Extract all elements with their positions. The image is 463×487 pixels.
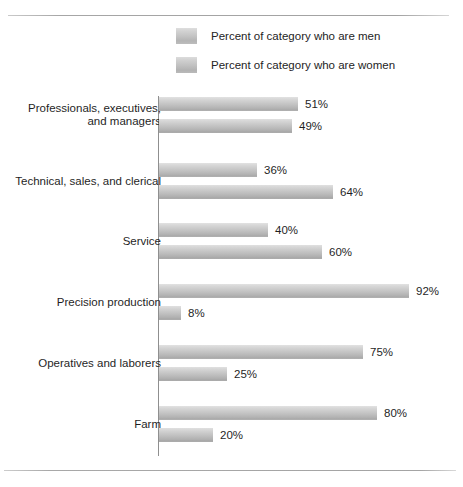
bar-women [159,367,227,381]
bar-value-men: 36% [264,163,287,177]
bar-women [159,306,181,320]
bar-row-women: 60% [159,245,352,259]
bar-men [159,284,409,298]
bar-row-women: 49% [159,119,322,133]
bar-row-women: 20% [159,428,243,442]
category-label-line1: Farm [134,418,161,430]
bar-row-men: 75% [159,345,393,359]
bar-value-men: 51% [305,97,328,111]
bar-value-men: 75% [370,345,393,359]
bar-row-women: 25% [159,367,257,381]
category-label-precision: Precision production [0,296,161,309]
bar-value-women: 25% [234,367,257,381]
bar-women [159,428,213,442]
category-label-line1: Professionals, executives, [28,102,161,114]
bar-women [159,185,333,199]
bar-row-men: 92% [159,284,439,298]
bar-row-men: 36% [159,163,287,177]
bar-men [159,406,377,420]
category-label-service: Service [0,235,161,248]
category-label-farm: Farm [0,418,161,431]
bar-row-men: 40% [159,223,298,237]
category-label-operatives: Operatives and laborers [0,357,161,370]
bar-value-women: 64% [340,185,363,199]
bar-men [159,345,363,359]
bar-value-men: 80% [384,406,407,420]
bar-value-women: 49% [299,119,322,133]
bar-row-women: 64% [159,185,363,199]
category-label-line1: Operatives and laborers [38,357,161,369]
bar-value-women: 60% [329,245,352,259]
chart-page: Percent of category who are men Percent … [0,0,463,487]
bar-men [159,163,257,177]
bar-row-women: 8% [159,306,205,320]
y-axis-line [158,96,159,456]
category-label-line2: and managers [87,115,161,127]
category-label-technical: Technical, sales, and clerical [0,175,161,188]
bar-women [159,245,322,259]
bar-row-men: 51% [159,97,328,111]
plot-area: Professionals, executives, and managers … [0,0,463,487]
category-label-professionals: Professionals, executives, and managers [0,102,161,128]
bar-men [159,223,268,237]
category-label-line1: Service [123,235,161,247]
bar-value-women: 20% [220,428,243,442]
bar-women [159,119,292,133]
category-label-line1: Technical, sales, and clerical [15,175,161,187]
bar-value-women: 8% [188,306,205,320]
category-label-line1: Precision production [57,296,161,308]
bar-value-men: 92% [416,284,439,298]
bar-men [159,97,298,111]
bar-row-men: 80% [159,406,407,420]
bar-value-men: 40% [275,223,298,237]
